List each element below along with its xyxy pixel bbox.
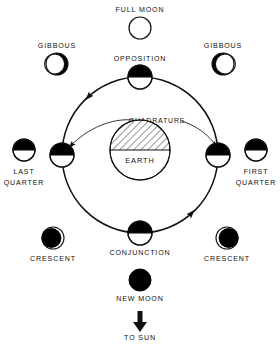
moon-first-quarter-icon <box>245 139 267 161</box>
earth-body <box>110 120 170 180</box>
moon-last-quarter-icon <box>13 139 35 161</box>
moon-opposition-label: OPPOSITION <box>114 55 167 63</box>
moon-first-quarter-orbit <box>206 143 230 167</box>
moon-last-quarter-label-line1: LAST <box>13 168 34 176</box>
moon-crescent-left-icon <box>41 227 64 249</box>
moon-first-quarter-label-line2: QUARTER <box>236 179 277 187</box>
quadrature-arc-right <box>182 121 216 146</box>
moon-gibbous-right-label: GIBBOUS <box>204 42 242 50</box>
earth-label: EARTH <box>125 156 154 165</box>
moon-crescent-left-label: CRESCENT <box>30 255 76 263</box>
moon-gibbous-right-icon <box>212 53 235 75</box>
moon-opposition <box>128 65 152 89</box>
moon-first-quarter-label-line1: FIRST <box>244 168 269 176</box>
to-sun-label: TO SUN <box>124 334 156 342</box>
moon-full-moon-label: FULL MOON <box>116 6 165 14</box>
moon-last-quarter-orbit <box>50 143 74 167</box>
moon-crescent-right-icon <box>216 227 239 249</box>
moon-new-moon-label: NEW MOON <box>116 295 163 303</box>
moon-full-moon-icon <box>129 17 151 39</box>
moon-gibbous-left-label: GIBBOUS <box>38 42 76 50</box>
moon-phase-diagram: QUADRATURE EARTH OPPOSITION <box>0 0 280 346</box>
to-sun-arrow-icon <box>133 311 147 332</box>
moon-crescent-right-label: CRESCENT <box>204 255 250 263</box>
moon-conjunction-label: CONJUNCTION <box>110 249 171 257</box>
moon-gibbous-left-icon <box>45 53 68 75</box>
moon-new-moon-icon <box>129 269 151 291</box>
moon-last-quarter-label-line2: QUARTER <box>4 179 45 187</box>
diagram-canvas: QUADRATURE EARTH OPPOSITION <box>0 0 280 346</box>
moon-conjunction <box>128 221 152 245</box>
